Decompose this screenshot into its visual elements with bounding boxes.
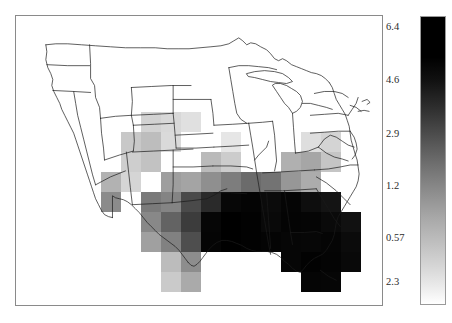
colorbar-tick-label: 2.3 (386, 276, 420, 287)
colorbar-tick-labels: 6.44.62.91.20.572.3 (386, 0, 420, 323)
colorbar-tick-label: 0.57 (386, 232, 420, 243)
grayscale-colorbar (420, 16, 446, 305)
state-outline-layer (16, 16, 382, 305)
colorbar-tick-label: 4.6 (386, 74, 420, 85)
map-panel (15, 15, 383, 306)
colorbar-tick-label: 6.4 (386, 21, 420, 32)
colorbar-tick-label: 1.2 (386, 180, 420, 191)
state-boundaries (46, 38, 370, 280)
figure-root: 6.44.62.91.20.572.3 (0, 0, 452, 323)
colorbar-tick-label: 2.9 (386, 128, 420, 139)
map-clip (16, 16, 382, 305)
